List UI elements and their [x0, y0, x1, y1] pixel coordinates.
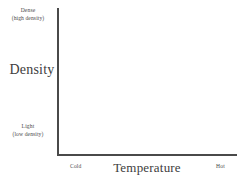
x-axis-max-label: Hot — [216, 163, 225, 169]
y-axis-min-label-group: Light (low density) — [0, 123, 56, 138]
y-axis-max-sublabel: (high density) — [0, 15, 56, 23]
plot-area — [59, 8, 237, 154]
y-axis-min-label: Light — [0, 123, 56, 131]
y-axis-max-label-group: Dense (high density) — [0, 7, 56, 22]
x-axis-title: Temperature — [57, 160, 237, 176]
x-axis-line — [57, 154, 237, 156]
density-temperature-axes-figure: Dense (high density) Density Light (low … — [0, 0, 241, 183]
y-axis-min-sublabel: (low density) — [0, 131, 56, 139]
y-axis-title: Density — [6, 62, 58, 78]
y-axis-max-label: Dense — [0, 7, 56, 15]
